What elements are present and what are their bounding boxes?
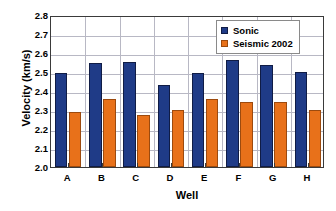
- legend-swatch-icon: [221, 27, 228, 34]
- bar-seismic-2002-c: [137, 115, 150, 167]
- x-axis-tick-mark: [102, 163, 103, 167]
- x-axis-tick-label-b: B: [86, 172, 116, 183]
- gridline-horizontal: [51, 55, 323, 56]
- gridline-vertical: [188, 17, 189, 167]
- legend-item: Seismic 2002: [221, 37, 293, 50]
- y-axis-tick-label: 2.4: [20, 87, 48, 97]
- bar-seismic-2002-h: [309, 110, 322, 167]
- y-axis-tick-label: 2.6: [20, 49, 48, 59]
- bar-chart-figure: Velocity (km/s) 2.02.12.22.32.42.52.62.7…: [0, 0, 336, 211]
- bar-sonic-e: [192, 73, 205, 167]
- x-axis-tick-label-e: E: [189, 172, 219, 183]
- bar-sonic-g: [260, 65, 273, 167]
- bar-sonic-f: [226, 60, 239, 167]
- x-axis-tick-label-c: C: [121, 172, 151, 183]
- bar-sonic-c: [123, 62, 136, 167]
- x-axis-tick-label-d: D: [155, 172, 185, 183]
- x-axis-tick-label-a: A: [52, 172, 82, 183]
- bar-seismic-2002-b: [103, 99, 116, 167]
- x-axis-tick-mark: [171, 163, 172, 167]
- bar-sonic-b: [89, 63, 102, 167]
- bar-seismic-2002-a: [69, 112, 82, 167]
- bar-seismic-2002-e: [206, 99, 219, 167]
- bar-seismic-2002-g: [274, 102, 287, 167]
- bar-sonic-d: [158, 85, 171, 167]
- y-axis-tick-label: 2.2: [20, 125, 48, 135]
- gridline-vertical: [154, 17, 155, 167]
- y-axis-tick-label: 2.3: [20, 106, 48, 116]
- x-axis-tick-mark: [239, 163, 240, 167]
- legend: SonicSeismic 2002: [216, 20, 300, 54]
- bar-seismic-2002-d: [172, 110, 185, 167]
- bar-seismic-2002-f: [240, 102, 253, 167]
- x-axis-tick-label-h: H: [292, 172, 322, 183]
- legend-item: Sonic: [221, 24, 293, 37]
- x-axis-title: Well: [50, 189, 324, 201]
- x-axis-tick-mark: [137, 163, 138, 167]
- legend-swatch-icon: [221, 40, 228, 47]
- x-axis-tick-label-g: G: [258, 172, 288, 183]
- bar-sonic-h: [295, 72, 308, 167]
- x-axis-tick-mark: [308, 163, 309, 167]
- gridline-vertical: [85, 17, 86, 167]
- y-axis-tick-label: 2.8: [20, 11, 48, 21]
- bar-sonic-a: [55, 73, 68, 167]
- legend-label: Seismic 2002: [233, 39, 293, 49]
- y-axis-tick-label: 2.7: [20, 30, 48, 40]
- gridline-vertical: [120, 17, 121, 167]
- x-axis-tick-mark: [274, 163, 275, 167]
- x-axis-tick-mark: [68, 163, 69, 167]
- x-axis-tick-mark: [205, 163, 206, 167]
- x-axis-tick-label-f: F: [223, 172, 253, 183]
- legend-label: Sonic: [233, 26, 259, 36]
- y-axis-tick-label: 2.1: [20, 144, 48, 154]
- y-axis-tick-label: 2.0: [20, 163, 48, 173]
- y-axis-tick-label: 2.5: [20, 68, 48, 78]
